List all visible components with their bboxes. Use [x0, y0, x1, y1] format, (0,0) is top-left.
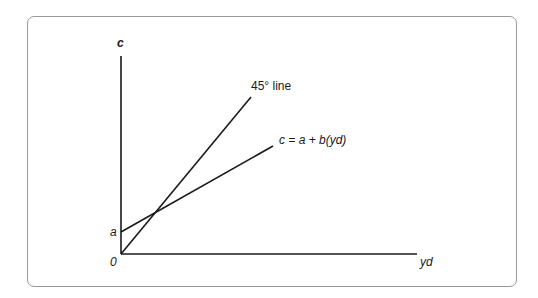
- line-45-label: 45° line: [251, 79, 291, 93]
- consumption-line-label: c = a + b(yd): [279, 133, 346, 147]
- y-axis-label: c: [117, 36, 124, 50]
- intercept-label: a: [110, 225, 117, 239]
- line-45-degree: [121, 97, 251, 254]
- consumption-function-line: [121, 146, 273, 232]
- x-axis-label: yd: [419, 255, 433, 269]
- origin-label: 0: [110, 255, 117, 269]
- consumption-diagram: c yd 0 a 45° line c = a + b(yd): [0, 0, 538, 298]
